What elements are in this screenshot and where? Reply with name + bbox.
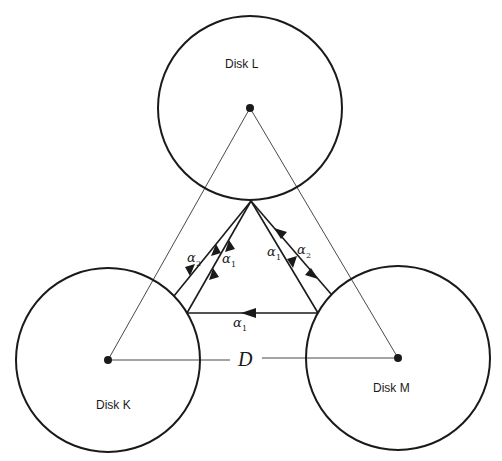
disk-l-center <box>246 104 254 112</box>
svg-text:2: 2 <box>306 251 311 260</box>
svg-text:1: 1 <box>242 324 247 333</box>
arrow-down-icon <box>185 264 195 276</box>
disk-m-label: Disk M <box>373 381 410 395</box>
disk-diagram: Disk L Disk K Disk M <box>0 0 502 461</box>
alpha-label: α <box>267 244 276 259</box>
arrow-down-icon <box>287 256 297 268</box>
svg-text:2: 2 <box>196 259 201 268</box>
disk-k-label: Disk K <box>96 398 131 412</box>
alpha-label: α <box>297 242 306 257</box>
alpha-label: α <box>222 251 231 266</box>
alpha-label: α <box>233 315 242 330</box>
arrow-left-icon <box>241 308 256 318</box>
svg-text:1: 1 <box>231 260 236 269</box>
alpha-label: α <box>187 250 196 265</box>
center-triangle <box>108 108 398 360</box>
arrow-up-icon <box>274 228 287 239</box>
alpha-labels: α 2 α 1 α 1 α 2 α 1 <box>187 242 311 333</box>
distance-label: D <box>237 348 253 370</box>
disk-l-label: Disk L <box>225 57 259 71</box>
disk-k-center <box>104 356 112 364</box>
arrow-up-icon <box>209 268 219 280</box>
arrow-down-icon <box>305 268 318 279</box>
svg-text:1: 1 <box>276 253 281 262</box>
disk-m-center <box>394 354 402 362</box>
arrow-up-icon <box>211 244 221 256</box>
disk-l: Disk L <box>158 16 342 200</box>
